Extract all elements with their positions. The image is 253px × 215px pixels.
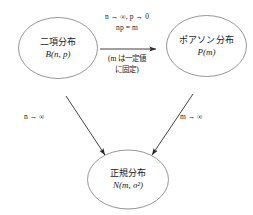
node-binomial-title: 二項分布 bbox=[40, 37, 77, 48]
diagonal-arrow-left bbox=[66, 96, 105, 155]
node-poisson-formula-text: P(m) bbox=[198, 47, 216, 57]
distribution-relationship-diagram: 二項分布 B(n, p) ポアソン分布 P(m) 正規分布 N(m, σ²) n… bbox=[0, 0, 253, 215]
node-normal-formula-text: N(m, σ²) bbox=[113, 180, 143, 190]
node-poisson-formula: P(m) bbox=[198, 47, 216, 58]
diagonal-arrow-left-label: n → ∞ bbox=[24, 112, 76, 123]
node-binomial-formula-text: B(n, p) bbox=[46, 49, 71, 59]
node-normal-title: 正規分布 bbox=[110, 168, 147, 179]
horizontal-arrow-label-above: n → ∞, p → 0 np = m bbox=[86, 12, 168, 34]
fixed-value-note-line-2: に固定) bbox=[86, 64, 168, 75]
limit-condition-line-2: np = m bbox=[86, 23, 168, 34]
diagonal-arrow-right-label: m → ∞ bbox=[180, 112, 232, 123]
fixed-value-note-line-1: (m は一定値 bbox=[86, 53, 168, 64]
node-binomial-formula: B(n, p) bbox=[46, 49, 71, 60]
limit-condition-line-1: n → ∞, p → 0 bbox=[86, 12, 168, 23]
node-poisson: ポアソン分布 P(m) bbox=[166, 15, 247, 77]
diagonal-arrow-right bbox=[152, 94, 193, 155]
node-normal-formula: N(m, σ²) bbox=[113, 180, 143, 191]
node-normal: 正規分布 N(m, σ²) bbox=[87, 150, 169, 209]
node-poisson-title: ポアソン分布 bbox=[179, 35, 234, 46]
horizontal-arrow-label-below: (m は一定値 に固定) bbox=[86, 53, 168, 76]
